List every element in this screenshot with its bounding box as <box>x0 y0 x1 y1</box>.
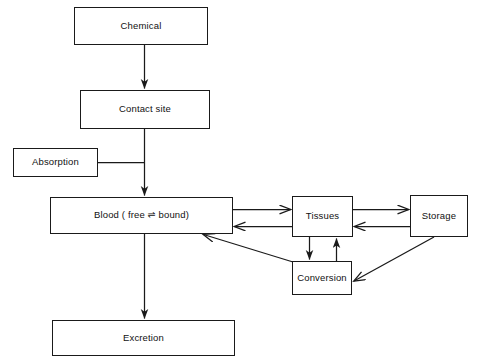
node-blood[interactable]: Blood ( free ⇌ bound) <box>50 197 233 234</box>
node-chemical-label: Chemical <box>119 21 164 31</box>
node-chemical[interactable]: Chemical <box>74 7 208 45</box>
node-conversion[interactable]: Conversion <box>292 261 352 295</box>
node-contact-site[interactable]: Contact site <box>80 90 210 129</box>
node-excretion[interactable]: Excretion <box>52 320 235 356</box>
edge-conversion-to-blood <box>204 235 294 263</box>
node-absorption[interactable]: Absorption <box>13 148 98 177</box>
node-excretion-label: Excretion <box>121 333 166 343</box>
node-tissues-label: Tissues <box>304 211 341 221</box>
node-tissues[interactable]: Tissues <box>292 196 353 237</box>
node-blood-label: Blood ( free ⇌ bound) <box>92 210 191 220</box>
edge-storage-to-conversion <box>354 237 434 281</box>
node-absorption-label: Absorption <box>30 157 81 167</box>
node-conversion-label: Conversion <box>295 273 349 283</box>
flow-diagram: Chemical Contact site Absorption Blood (… <box>0 0 479 363</box>
diagram-connectors <box>0 0 479 363</box>
node-storage-label: Storage <box>420 211 458 221</box>
node-storage[interactable]: Storage <box>410 195 468 237</box>
node-contact-site-label: Contact site <box>117 104 173 114</box>
